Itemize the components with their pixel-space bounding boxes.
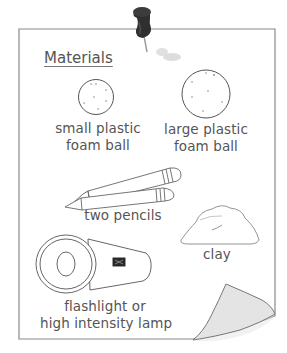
- materials-sheet: Materials small plastic foam ball large …: [0, 0, 287, 353]
- label-line: large plastic: [160, 121, 252, 138]
- clay-label: clay: [195, 246, 239, 263]
- label-line: high intensity lamp: [40, 315, 170, 332]
- label-line: small plastic: [52, 120, 144, 137]
- label-line: clay: [195, 246, 239, 263]
- flashlight-label: flashlight or high intensity lamp: [40, 298, 170, 332]
- label-line: foam ball: [52, 137, 144, 154]
- large-foam-ball-icon: [182, 70, 230, 118]
- large-ball-label: large plastic foam ball: [160, 121, 252, 155]
- pencils-label: two pencils: [80, 207, 166, 224]
- label-line: foam ball: [160, 138, 252, 155]
- label-line: two pencils: [80, 207, 166, 224]
- small-foam-ball-icon: [79, 80, 114, 115]
- materials-title: Materials: [44, 49, 113, 67]
- small-ball-label: small plastic foam ball: [52, 120, 144, 154]
- label-line: flashlight or: [40, 298, 170, 315]
